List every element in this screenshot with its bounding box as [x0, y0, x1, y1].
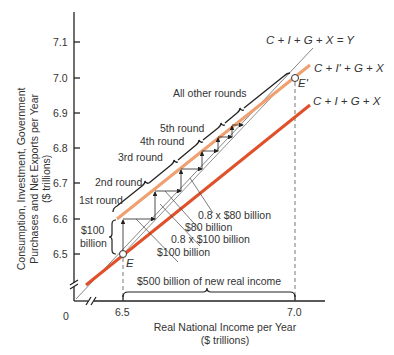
y-axis — [70, 12, 80, 301]
shift-brace — [109, 220, 116, 254]
label-new-income: $500 billion of new real income — [137, 276, 281, 287]
y-tick-7-1: 7.1 — [53, 36, 68, 48]
label-shift-unit: billion — [80, 238, 107, 249]
income-brace — [123, 288, 295, 297]
y-tick-7-0: 7.0 — [53, 72, 68, 84]
multiplier-chart: Consumption, Investment, Government Purc… — [0, 0, 394, 355]
x-tick-6-5: 6.5 — [115, 306, 130, 318]
label-E: E — [126, 258, 134, 270]
label-all-rounds: All other rounds — [173, 88, 247, 99]
label-round-2: 2nd round — [95, 177, 142, 188]
label-E-prime: E' — [298, 78, 308, 90]
label-100: $100 billion — [157, 247, 210, 258]
x-axis-units: ($ trillions) — [140, 335, 310, 346]
y-tick-6-7: 6.7 — [53, 177, 68, 189]
label-round-3: 3rd round — [118, 152, 163, 163]
line-45-degree — [76, 48, 313, 299]
x-axis-label: Real National Income per Year — [140, 322, 310, 333]
label-80: $80 billion — [185, 222, 232, 233]
x-tick-origin: 0 — [63, 310, 69, 322]
y-axis-label: Consumption, Investment, Government Purc… — [15, 79, 53, 279]
x-axis — [74, 295, 325, 305]
label-08x100: 0.8 x $100 billion — [171, 234, 250, 245]
y-tick-6-8: 6.8 — [53, 142, 68, 154]
label-08x80: 0.8 x $80 billion — [198, 210, 271, 221]
label-45-line: C + I + G + X = Y — [266, 35, 354, 47]
label-new-ae: C + I' + G + X — [314, 63, 384, 75]
x-tick-7-0: 7.0 — [287, 306, 302, 318]
label-old-ae: C + I + G + X — [313, 96, 380, 108]
y-tick-6-6: 6.6 — [53, 213, 68, 225]
label-round-4: 4th round — [140, 136, 184, 147]
label-shift-amount: $100 — [81, 225, 104, 236]
label-round-5: 5th round — [160, 123, 204, 134]
y-tick-6-5: 6.5 — [53, 248, 68, 260]
label-round-1: 1st round — [79, 195, 123, 206]
y-tick-6-9: 6.9 — [53, 107, 68, 119]
